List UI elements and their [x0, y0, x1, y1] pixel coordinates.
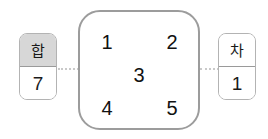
number-cell-4: 4 [98, 98, 116, 118]
difference-box[interactable]: 차 1 [218, 33, 256, 100]
dotted-connector-right [200, 68, 219, 70]
sum-box-label: 합 [20, 34, 56, 67]
difference-box-label: 차 [219, 34, 255, 67]
number-cell-1: 1 [98, 32, 116, 52]
dotted-connector-left [58, 68, 79, 70]
number-cell-5: 5 [163, 98, 181, 118]
number-grid-card[interactable]: 1 2 3 4 5 [78, 10, 200, 130]
number-cell-3: 3 [130, 65, 148, 85]
sum-box[interactable]: 합 7 [19, 33, 57, 100]
number-cell-2: 2 [163, 32, 181, 52]
diagram-canvas: 합 7 1 2 3 4 5 차 1 [0, 0, 268, 139]
sum-box-value: 7 [20, 67, 56, 99]
difference-box-value: 1 [219, 67, 255, 99]
